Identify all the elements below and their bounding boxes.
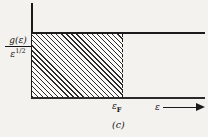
fermi-level-dashed-line <box>122 34 123 98</box>
right-arrow-head <box>196 103 205 111</box>
panel-caption: (c) <box>112 119 125 130</box>
y-axis-label-denominator-exponent: 1/2 <box>15 47 25 55</box>
x-axis-label-symbol: ε <box>155 102 160 112</box>
x-axis-line <box>31 97 205 99</box>
right-arrow-shaft <box>163 107 199 109</box>
right-arrow-icon <box>163 103 205 112</box>
figure-panel-c: g(ε) ε1/2 εF ε (c) <box>0 0 208 137</box>
y-axis-label-denominator: ε1/2 <box>4 47 32 59</box>
occupied-states-hatched-region <box>32 34 123 97</box>
x-axis-label: ε <box>155 102 205 112</box>
y-axis-label-numerator: g(ε) <box>4 36 32 46</box>
y-axis-label: g(ε) ε1/2 <box>4 36 32 60</box>
fermi-energy-subscript: F <box>117 106 122 114</box>
fermi-energy-tick-label: εF <box>112 101 121 114</box>
